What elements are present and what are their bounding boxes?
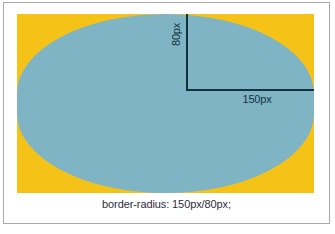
vertical-radius-label: 80px xyxy=(170,28,182,46)
figure-frame: 80px 150px border-radius: 150px/80px; xyxy=(3,2,330,224)
horizontal-radius-line xyxy=(186,89,314,91)
border-radius-demo-box: 80px 150px xyxy=(17,14,314,193)
figure-caption: border-radius: 150px/80px; xyxy=(4,198,329,210)
vertical-radius-line xyxy=(186,14,188,91)
horizontal-radius-label: 150px xyxy=(217,93,297,105)
